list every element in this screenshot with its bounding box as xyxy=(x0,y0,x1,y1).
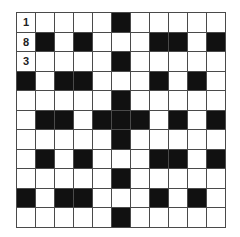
grid-cell[interactable] xyxy=(131,91,149,110)
grid-cell[interactable] xyxy=(188,208,206,227)
grid-cell[interactable] xyxy=(55,52,73,71)
grid-cell[interactable] xyxy=(207,72,225,91)
grid-cell[interactable] xyxy=(131,13,149,32)
grid-cell[interactable] xyxy=(207,169,225,188)
grid-cell[interactable] xyxy=(74,91,92,110)
grid-cell[interactable] xyxy=(112,189,130,208)
grid-cell[interactable] xyxy=(93,189,111,208)
grid-cell[interactable] xyxy=(55,91,73,110)
grid-cell[interactable] xyxy=(169,189,187,208)
grid-cell[interactable] xyxy=(93,169,111,188)
grid-cell[interactable] xyxy=(36,52,54,71)
grid-cell[interactable]: 8 xyxy=(17,33,35,52)
crossword-grid: 183 xyxy=(16,12,226,228)
black-cell xyxy=(74,150,92,169)
black-cell xyxy=(36,111,54,130)
grid-cell[interactable] xyxy=(188,150,206,169)
grid-cell[interactable] xyxy=(93,208,111,227)
grid-cell[interactable] xyxy=(93,130,111,149)
grid-cell[interactable] xyxy=(150,169,168,188)
grid-cell[interactable] xyxy=(17,208,35,227)
grid-cell[interactable] xyxy=(188,169,206,188)
black-cell xyxy=(150,33,168,52)
black-cell xyxy=(17,189,35,208)
grid-cell[interactable] xyxy=(55,13,73,32)
grid-cell[interactable] xyxy=(188,130,206,149)
grid-cell[interactable] xyxy=(17,111,35,130)
grid-cell[interactable] xyxy=(169,52,187,71)
grid-cell[interactable] xyxy=(55,33,73,52)
grid-cell[interactable] xyxy=(131,33,149,52)
grid-cell[interactable]: 3 xyxy=(17,52,35,71)
grid-cell[interactable] xyxy=(74,130,92,149)
cell-value: 8 xyxy=(23,36,29,48)
grid-cell[interactable] xyxy=(74,13,92,32)
grid-cell[interactable] xyxy=(36,72,54,91)
black-cell xyxy=(207,111,225,130)
grid-cell[interactable] xyxy=(17,150,35,169)
grid-cell[interactable] xyxy=(36,208,54,227)
grid-cell[interactable] xyxy=(150,111,168,130)
grid-cell[interactable] xyxy=(74,111,92,130)
grid-cell[interactable] xyxy=(169,72,187,91)
grid-cell[interactable] xyxy=(131,189,149,208)
black-cell xyxy=(150,72,168,91)
grid-cell[interactable] xyxy=(17,169,35,188)
grid-cell[interactable] xyxy=(36,91,54,110)
grid-cell[interactable] xyxy=(131,130,149,149)
black-cell xyxy=(112,130,130,149)
grid-cell[interactable] xyxy=(74,169,92,188)
grid-cell[interactable] xyxy=(74,208,92,227)
grid-cell[interactable] xyxy=(36,13,54,32)
grid-cell[interactable] xyxy=(112,72,130,91)
grid-cell[interactable] xyxy=(55,208,73,227)
grid-cell[interactable] xyxy=(207,189,225,208)
grid-cell[interactable] xyxy=(131,72,149,91)
grid-cell[interactable] xyxy=(36,189,54,208)
grid-cell[interactable] xyxy=(36,130,54,149)
grid-cell[interactable] xyxy=(169,169,187,188)
grid-cell[interactable] xyxy=(169,13,187,32)
grid-cell[interactable] xyxy=(169,91,187,110)
grid-cell[interactable] xyxy=(55,130,73,149)
grid-cell[interactable] xyxy=(36,169,54,188)
grid-cell[interactable] xyxy=(188,91,206,110)
black-cell xyxy=(55,72,73,91)
grid-cell[interactable] xyxy=(93,72,111,91)
grid-cell[interactable] xyxy=(188,111,206,130)
grid-cell[interactable] xyxy=(131,150,149,169)
grid-cell[interactable] xyxy=(150,52,168,71)
grid-cell[interactable] xyxy=(131,208,149,227)
grid-cell[interactable] xyxy=(55,150,73,169)
grid-cell[interactable] xyxy=(112,150,130,169)
grid-cell[interactable]: 1 xyxy=(17,13,35,32)
grid-cell[interactable] xyxy=(112,33,130,52)
grid-cell[interactable] xyxy=(93,33,111,52)
grid-cell[interactable] xyxy=(188,33,206,52)
grid-cell[interactable] xyxy=(93,52,111,71)
grid-cell[interactable] xyxy=(74,52,92,71)
grid-cell[interactable] xyxy=(55,169,73,188)
grid-cell[interactable] xyxy=(17,130,35,149)
cell-value: 3 xyxy=(23,55,29,67)
grid-cell[interactable] xyxy=(131,169,149,188)
grid-cell[interactable] xyxy=(188,13,206,32)
grid-cell[interactable] xyxy=(188,52,206,71)
grid-cell[interactable] xyxy=(207,208,225,227)
grid-cell[interactable] xyxy=(17,91,35,110)
grid-cell[interactable] xyxy=(150,91,168,110)
grid-cell[interactable] xyxy=(207,91,225,110)
grid-cell[interactable] xyxy=(150,130,168,149)
grid-cell[interactable] xyxy=(169,130,187,149)
grid-cell[interactable] xyxy=(150,13,168,32)
grid-cell[interactable] xyxy=(93,91,111,110)
grid-cell[interactable] xyxy=(93,150,111,169)
grid-cell[interactable] xyxy=(207,13,225,32)
black-cell xyxy=(112,208,130,227)
grid-cell[interactable] xyxy=(131,52,149,71)
grid-cell[interactable] xyxy=(169,208,187,227)
grid-cell[interactable] xyxy=(93,13,111,32)
grid-cell[interactable] xyxy=(207,130,225,149)
grid-cell[interactable] xyxy=(150,208,168,227)
grid-cell[interactable] xyxy=(207,52,225,71)
